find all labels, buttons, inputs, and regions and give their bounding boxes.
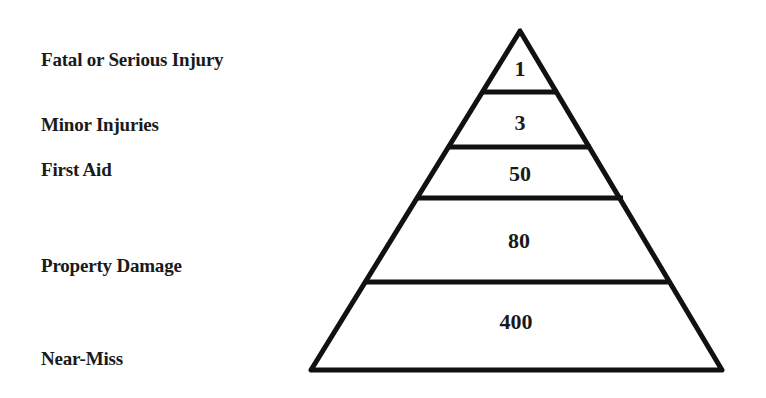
level-value-near-miss: 400 xyxy=(476,309,556,335)
level-value-property-damage: 80 xyxy=(479,228,559,254)
level-value-minor-injuries: 3 xyxy=(480,110,560,136)
level-label-fatal: Fatal or Serious Injury xyxy=(41,49,223,71)
level-value-fatal: 1 xyxy=(480,56,560,82)
level-label-property-damage: Property Damage xyxy=(41,255,182,277)
level-label-first-aid: First Aid xyxy=(41,159,112,181)
level-label-near-miss: Near-Miss xyxy=(41,348,123,370)
level-label-minor-injuries: Minor Injuries xyxy=(41,114,159,136)
level-value-first-aid: 50 xyxy=(480,161,560,187)
